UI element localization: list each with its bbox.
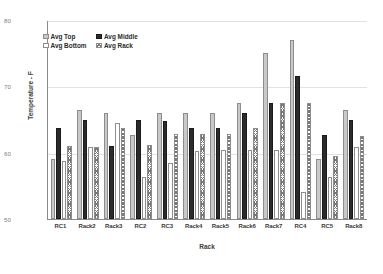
bar-avg-bottom	[115, 123, 120, 219]
x-axis-title: Rack	[47, 243, 367, 250]
legend-item-avg-middle: Avg Middle	[96, 33, 137, 40]
legend-swatch-icon	[43, 43, 49, 49]
bar-avg-middle	[189, 128, 194, 219]
bar-avg-bottom	[354, 147, 359, 219]
bar-group	[261, 21, 288, 219]
legend-item-avg-rack: Avg Rack	[96, 42, 137, 49]
bar-avg-top	[130, 135, 135, 219]
bar-avg-middle	[216, 128, 221, 219]
bar-avg-rack	[94, 147, 99, 219]
x-tick-label: RC5	[314, 223, 341, 237]
legend: Avg Top Avg Middle Avg Bottom Avg Rack	[43, 33, 138, 49]
x-tick-label: Rack8	[340, 223, 367, 237]
bar-avg-top	[237, 103, 242, 219]
bar-avg-bottom	[248, 150, 253, 219]
bar-avg-top	[183, 113, 188, 219]
bar-avg-bottom	[301, 192, 306, 219]
y-tick-label: 60	[0, 151, 11, 157]
bar-group	[75, 21, 102, 219]
bar-group	[314, 21, 341, 219]
x-tick-label: Rack2	[74, 223, 101, 237]
bar-group	[101, 21, 128, 219]
legend-label: Avg Middle	[104, 33, 138, 40]
bar-avg-top	[263, 53, 268, 219]
bar-avg-bottom	[142, 177, 147, 219]
bar-group	[48, 21, 75, 219]
bar-avg-top	[77, 110, 82, 219]
bar-group	[234, 21, 261, 219]
legend-swatch-icon	[96, 43, 102, 49]
bar-avg-rack	[280, 103, 285, 219]
bar-group	[287, 21, 314, 219]
bar-avg-middle	[242, 113, 247, 219]
bar-avg-rack	[227, 134, 232, 219]
legend-swatch-icon	[96, 34, 102, 40]
y-tick-label: 80	[0, 18, 11, 24]
bar-avg-rack	[147, 145, 152, 219]
x-tick-label: RC4	[287, 223, 314, 237]
legend-swatch-icon	[43, 34, 49, 40]
bar-group	[340, 21, 367, 219]
x-tick-label: RC3	[154, 223, 181, 237]
bar-avg-rack	[253, 128, 258, 219]
bar-avg-rack	[200, 134, 205, 219]
bar-avg-middle	[295, 76, 300, 219]
x-tick-label: RC2	[127, 223, 154, 237]
bar-avg-bottom	[168, 163, 173, 219]
x-tick-label: Rack7	[260, 223, 287, 237]
bar-avg-middle	[349, 120, 354, 219]
bar-avg-top	[157, 113, 162, 219]
bar-avg-rack	[67, 146, 72, 219]
x-axis-tick-labels: RC1Rack2Rack3RC2RC3Rack4Rack5Rack6Rack7R…	[47, 223, 367, 237]
legend-label: Avg Bottom	[51, 42, 87, 49]
bar-avg-rack	[360, 136, 365, 219]
legend-item-avg-bottom: Avg Bottom	[43, 42, 86, 49]
x-tick-label: RC1	[47, 223, 74, 237]
bar-avg-middle	[136, 120, 141, 219]
bar-group	[207, 21, 234, 219]
bar-avg-bottom	[88, 147, 93, 219]
bar-avg-middle	[269, 103, 274, 219]
legend-label: Avg Top	[51, 33, 76, 40]
bar-group	[154, 21, 181, 219]
x-tick-label: Rack3	[100, 223, 127, 237]
legend-label: Avg Rack	[104, 42, 133, 49]
bar-avg-top	[343, 110, 348, 219]
bar-groups	[48, 21, 367, 219]
bar-avg-bottom	[274, 150, 279, 219]
bar-avg-middle	[109, 146, 114, 219]
y-tick-label: 50	[0, 217, 11, 223]
bar-avg-top	[316, 159, 321, 219]
y-tick-label: 70	[0, 84, 11, 90]
bar-avg-rack	[174, 134, 179, 219]
bar-avg-bottom	[328, 177, 333, 219]
legend-item-avg-top: Avg Top	[43, 33, 86, 40]
bar-avg-rack	[333, 156, 338, 219]
bar-avg-bottom	[62, 161, 67, 219]
bar-avg-middle	[56, 128, 61, 219]
bar-group	[181, 21, 208, 219]
bar-chart: Temperature - F 80 70 60 50 RC1Rack2Rack…	[0, 0, 383, 274]
bar-avg-middle	[322, 135, 327, 219]
bar-avg-rack	[121, 128, 126, 219]
bar-avg-bottom	[221, 150, 226, 219]
bar-group	[128, 21, 155, 219]
x-tick-label: Rack4	[180, 223, 207, 237]
bar-avg-rack	[307, 103, 312, 219]
plot-area	[47, 21, 367, 220]
bar-avg-top	[51, 159, 56, 219]
bar-avg-top	[210, 113, 215, 219]
x-tick-label: Rack5	[207, 223, 234, 237]
x-tick-label: Rack6	[234, 223, 261, 237]
y-axis-title: Temperature - F	[27, 41, 34, 151]
bar-avg-top	[290, 40, 295, 219]
bar-avg-top	[104, 113, 109, 219]
bar-avg-middle	[163, 121, 168, 219]
bar-avg-middle	[83, 120, 88, 219]
bar-avg-bottom	[195, 151, 200, 219]
